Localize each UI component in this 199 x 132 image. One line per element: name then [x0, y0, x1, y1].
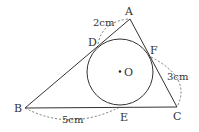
label-a: A [124, 5, 134, 18]
label-e: E [120, 111, 128, 124]
label-c: C [173, 110, 181, 123]
label-b: B [14, 102, 22, 115]
measure-be: 5cm [62, 114, 84, 125]
center-dot [119, 70, 122, 73]
label-o: O [124, 66, 133, 79]
measure-cf: 3cm [167, 71, 189, 82]
measure-ad: 2cm [93, 17, 115, 28]
label-d: D [88, 36, 97, 49]
triangle-abc [25, 19, 177, 108]
label-f: F [150, 44, 158, 57]
geometry-diagram: A D F B E C O 2cm 3cm 5cm [0, 0, 199, 132]
dashed-arc-cf [151, 57, 181, 107]
